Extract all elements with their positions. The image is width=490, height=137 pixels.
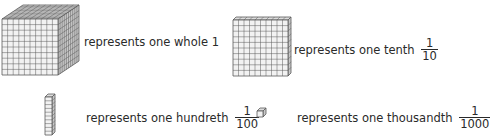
thousand-cube-icon [0,0,82,80]
unit-cube-icon [256,107,268,119]
item-thousandth: represents one thousandth 1 1000 [297,106,490,131]
unit-front-face [257,111,263,117]
ten-rod-icon [42,92,62,137]
fraction-denominator: 10 [421,49,438,62]
fraction-numerator: 1 [242,105,251,117]
item-hundredth: represents one hundreth 1 100 [86,106,259,131]
hundred-flat-icon [230,14,295,80]
hundredth-label: represents one hundreth [86,111,228,125]
item-tenth: represents one tenth 1 10 [294,38,438,63]
thousandth-fraction: 1 1000 [459,105,490,130]
fraction-numerator: 1 [425,37,434,49]
tenth-label: represents one tenth [294,43,415,57]
whole-label: represents one whole [84,35,208,49]
fraction-denominator: 1000 [459,117,490,130]
fraction-numerator: 1 [470,105,479,117]
item-whole: represents one whole 1 [84,37,219,49]
thousandth-label: represents one thousandth [297,111,453,125]
tenth-fraction: 1 10 [421,37,438,62]
whole-value: 1 [212,35,219,49]
